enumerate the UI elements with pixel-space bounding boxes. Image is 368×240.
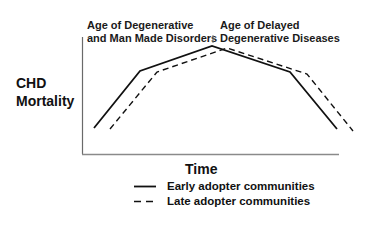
legend-item-early: Early adopter communities	[167, 179, 315, 193]
legend: Early adopter communities Late adopter c…	[167, 179, 315, 208]
x-axis-label: Time	[185, 161, 217, 177]
legend-item-late: Late adopter communities	[167, 194, 315, 208]
series-early-adopter-line	[94, 46, 337, 129]
series-late-adopter-line	[110, 48, 353, 131]
